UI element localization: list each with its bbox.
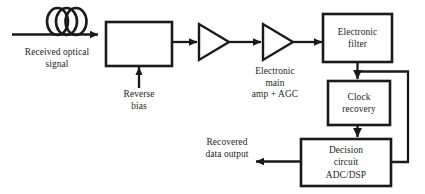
electronic-main-amp-label: Electronic main amp + AGC xyxy=(238,66,312,101)
decision-circuit-label: Decision circuit ADC/DSP xyxy=(301,139,391,186)
diagram-canvas: Received optical signal Reverse bias Ele… xyxy=(0,0,425,194)
fiber-coil-icon xyxy=(47,8,87,35)
clock-recovery-label: Clock recovery xyxy=(328,81,390,125)
received-optical-signal-label: Received optical signal xyxy=(12,47,102,70)
preamplifier-triangle xyxy=(199,24,229,60)
recovered-data-output-label: Recovered data output xyxy=(185,137,269,160)
photodetector-box xyxy=(106,22,172,66)
main-amplifier-triangle xyxy=(263,24,293,60)
electronic-filter-label: Electronic filter xyxy=(323,14,392,62)
reverse-bias-label: Reverse bias xyxy=(109,89,169,112)
